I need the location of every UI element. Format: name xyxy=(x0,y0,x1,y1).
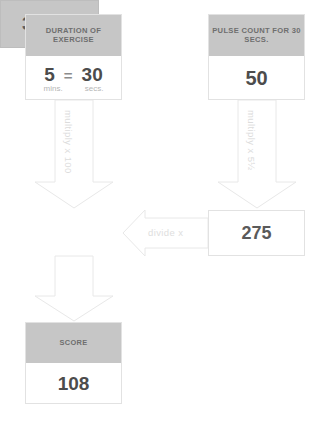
arrow-label-divide: divide x xyxy=(148,228,183,238)
score-value: 108 xyxy=(58,374,90,393)
arrow-label-multiply-fraction: multiply x 5½ xyxy=(247,110,257,171)
arrow-duration-to-total xyxy=(35,100,113,208)
pulse-count-body: 50 xyxy=(209,56,304,99)
arrow-total-to-score xyxy=(35,256,113,321)
score-body: 108 xyxy=(26,363,121,403)
duration-of-exercise-box: DURATION OF EXERCISE 5 = 30 mins. secs. xyxy=(25,14,122,100)
duration-of-exercise-body: 5 = 30 mins. secs. xyxy=(26,56,121,99)
arrow-pulse-to-pulse-total xyxy=(218,100,296,208)
duration-minutes-unit: mins. xyxy=(44,85,63,93)
duration-seconds-value: 30 xyxy=(82,65,103,84)
score-box: SCORE 108 xyxy=(25,322,122,404)
pulse-total-box: 275 xyxy=(208,210,305,256)
duration-units-row: mins. secs. xyxy=(26,85,121,93)
duration-minutes-value: 5 xyxy=(44,65,55,84)
pulse-count-header: PULSE COUNT FOR 30 SECS. xyxy=(209,15,304,56)
pulse-count-box: PULSE COUNT FOR 30 SECS. 50 xyxy=(208,14,305,100)
pulse-count-value: 50 xyxy=(245,68,267,88)
pulse-total-value: 275 xyxy=(241,224,271,242)
arrow-label-multiply-100: multiply x 100 xyxy=(64,110,74,174)
flowchart-canvas: multiply x 100 multiply x 5½ divide x DU… xyxy=(0,0,320,424)
duration-seconds-unit: secs. xyxy=(85,85,104,93)
score-header: SCORE xyxy=(26,323,121,363)
duration-equation-row: 5 = 30 xyxy=(26,65,121,84)
duration-equals-sign: = xyxy=(64,68,73,83)
duration-of-exercise-header: DURATION OF EXERCISE xyxy=(26,15,121,56)
